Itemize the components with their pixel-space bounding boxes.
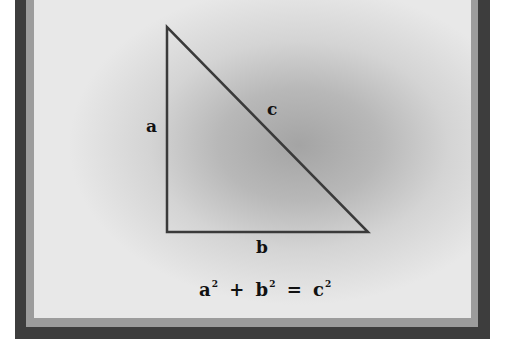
eq-term-a: a	[199, 279, 211, 300]
eq-term-c: c	[313, 279, 324, 300]
eq-exponent-c: 2	[325, 279, 331, 289]
label-side-a: a	[146, 118, 157, 135]
eq-exponent-a: 2	[212, 279, 218, 289]
eq-equals: =	[287, 279, 302, 300]
eq-exponent-b: 2	[269, 279, 275, 289]
pythagorean-equation: a2 + b2 = c2	[199, 279, 331, 300]
label-side-b: b	[256, 239, 268, 256]
right-triangle	[0, 0, 506, 356]
label-side-c: c	[267, 101, 277, 118]
eq-term-b: b	[256, 279, 269, 300]
eq-plus: +	[229, 279, 244, 300]
